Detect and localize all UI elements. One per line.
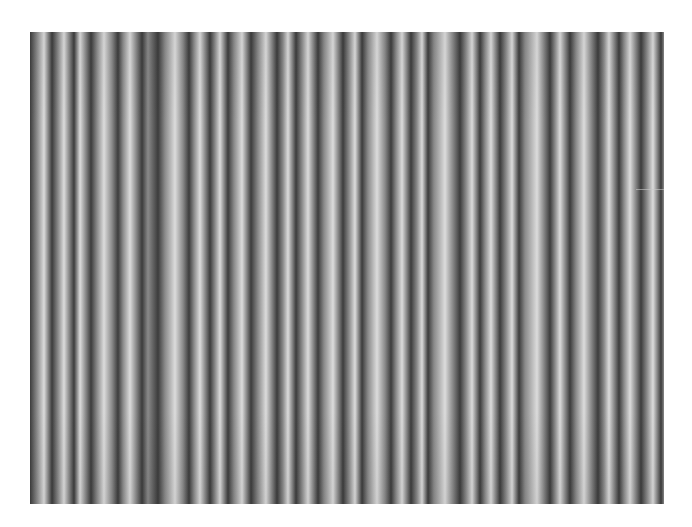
vertical-shading [30, 32, 664, 504]
striped-photo [30, 32, 664, 504]
scan-artifact-line [636, 189, 664, 190]
